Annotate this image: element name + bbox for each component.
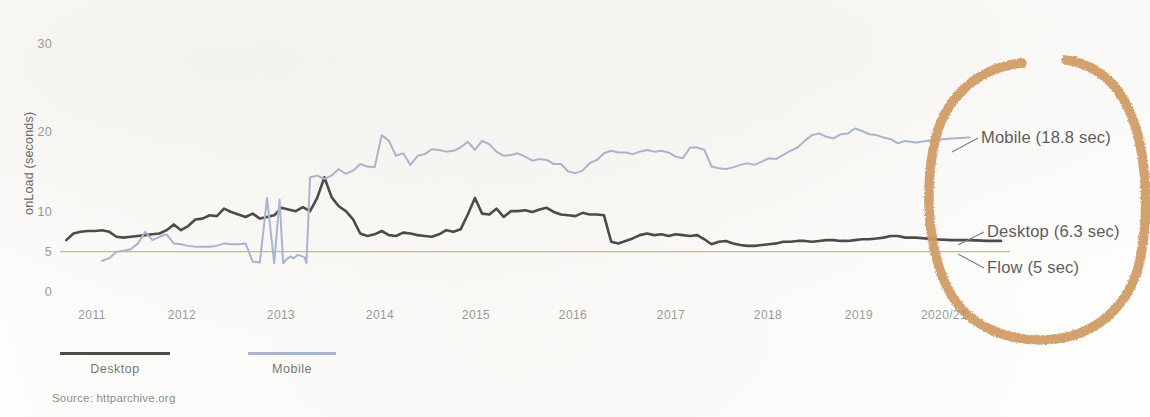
series-line-mobile <box>102 128 970 263</box>
series-group <box>66 128 1001 263</box>
source-caption: Source: httparchive.org <box>52 392 176 404</box>
chart-figure: onLoad (seconds) 30 20 10 5 0 2011 2012 … <box>0 0 1150 417</box>
y-tick-20: 20 <box>22 125 52 139</box>
x-tick-2017: 2017 <box>641 308 701 322</box>
legend-item-mobile[interactable]: Mobile <box>248 352 336 376</box>
mobile-leader-line <box>952 138 978 152</box>
highlight-circle-annotation <box>929 60 1146 340</box>
x-tick-2011: 2011 <box>62 308 122 322</box>
x-tick-2019: 2019 <box>829 308 889 322</box>
y-tick-10: 10 <box>22 205 52 219</box>
flow-annotation-label: Flow (5 sec) <box>987 258 1079 277</box>
x-tick-2012: 2012 <box>152 308 212 322</box>
desktop-leader-line <box>958 232 984 245</box>
legend-swatch-desktop <box>60 352 170 355</box>
legend-item-desktop[interactable]: Desktop <box>60 352 170 376</box>
desktop-annotation-label: Desktop (6.3 sec) <box>987 222 1120 241</box>
series-line-desktop <box>66 177 1001 246</box>
chart-plot-svg <box>0 0 1150 417</box>
mobile-annotation-label: Mobile (18.8 sec) <box>981 128 1111 147</box>
y-tick-5: 5 <box>22 245 52 259</box>
legend-label-desktop: Desktop <box>60 362 170 376</box>
flow-leader-line <box>958 254 984 268</box>
x-tick-2013: 2013 <box>251 308 311 322</box>
legend-label-mobile: Mobile <box>248 362 336 376</box>
x-tick-2014: 2014 <box>350 308 410 322</box>
x-tick-2015: 2015 <box>446 308 506 322</box>
y-tick-30: 30 <box>22 37 52 51</box>
legend-swatch-mobile <box>248 352 336 355</box>
x-tick-2020-21: 2020/21 <box>909 308 979 322</box>
x-tick-2016: 2016 <box>543 308 603 322</box>
x-tick-2018: 2018 <box>738 308 798 322</box>
y-tick-0: 0 <box>22 285 52 299</box>
